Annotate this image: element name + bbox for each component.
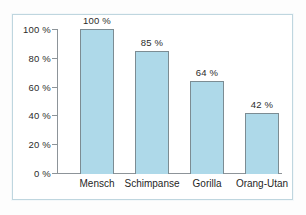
y-tick-label-60: 60 % — [0, 82, 51, 93]
plot-area: 0 % 20 % 40 % 60 % 80 % 100 % 100 % 85 % — [13, 15, 294, 201]
bar-slot-gorilla: 64 % — [181, 29, 233, 174]
bar-value-mensch: 100 % — [71, 15, 123, 26]
bar-mensch[interactable] — [80, 29, 114, 174]
bar-slot-orang-utan: 42 % — [236, 29, 288, 174]
y-tick-label-0: 0 % — [0, 168, 51, 179]
bar-schimpanse[interactable] — [135, 51, 169, 174]
category-label-orang-utan: Orang-Utan — [222, 178, 302, 189]
bar-orang-utan[interactable] — [245, 113, 279, 174]
chart-screenshot: 0 % 20 % 40 % 60 % 80 % 100 % 100 % 85 % — [0, 0, 306, 215]
y-tick-label-40: 40 % — [0, 110, 51, 121]
y-tick-label-20: 20 % — [0, 139, 51, 150]
bar-gorilla[interactable] — [190, 81, 224, 174]
bar-slot-mensch: 100 % — [71, 29, 123, 174]
bar-slot-schimpanse: 85 % — [126, 29, 178, 174]
category-label-group: Mensch Schimpanse Gorilla Orang-Utan — [57, 178, 282, 198]
bar-value-schimpanse: 85 % — [126, 37, 178, 48]
figure-frame: 0 % 20 % 40 % 60 % 80 % 100 % 100 % 85 % — [12, 14, 293, 200]
y-tick-label-80: 80 % — [0, 53, 51, 64]
bar-group: 100 % 85 % 64 % 42 % — [57, 29, 282, 174]
y-tick-label-100: 100 % — [0, 24, 51, 35]
bar-value-orang-utan: 42 % — [236, 99, 288, 110]
bar-value-gorilla: 64 % — [181, 67, 233, 78]
